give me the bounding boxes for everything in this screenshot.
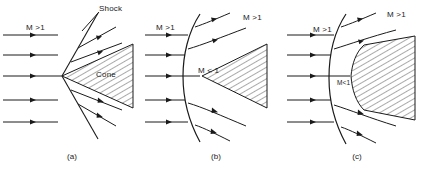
freestream-streamlines xyxy=(3,35,62,122)
freestream-arrowheads xyxy=(310,32,316,124)
panel-b: M >1 M >1 M < 1 (b) xyxy=(142,0,284,173)
label-subsonic-mach-c: M<1 xyxy=(337,78,350,87)
freestream-arrowheads xyxy=(166,32,172,124)
caption-b: (b) xyxy=(204,152,228,161)
panel-c-drawing xyxy=(284,0,426,173)
label-shock-a: Shock xyxy=(99,4,122,13)
figure-canvas: M >1 Shock Cone (a) xyxy=(0,0,427,173)
panel-a: M >1 Shock Cone (a) xyxy=(0,0,142,173)
blunt-body xyxy=(351,36,415,120)
label-cone-a: Cone xyxy=(96,70,116,79)
blunt-cone-body xyxy=(202,44,267,108)
freestream-arrowheads xyxy=(30,32,36,124)
panel-c: M >1 M >1 M<1 (c) xyxy=(284,0,426,173)
label-freestream-mach-c: M >1 xyxy=(313,25,332,34)
label-post-shock-mach-b: M >1 xyxy=(243,13,262,22)
label-freestream-mach-b: M >1 xyxy=(156,23,175,32)
caption-a: (a) xyxy=(60,152,84,161)
label-post-shock-mach-c: M >1 xyxy=(387,10,406,19)
label-freestream-mach-a: M >1 xyxy=(26,23,45,32)
shock-leader-line xyxy=(82,12,99,31)
bow-shock-curve xyxy=(183,14,200,142)
panel-a-drawing xyxy=(0,0,142,173)
caption-c: (c) xyxy=(345,152,369,161)
label-subsonic-mach-b: M < 1 xyxy=(198,66,219,75)
